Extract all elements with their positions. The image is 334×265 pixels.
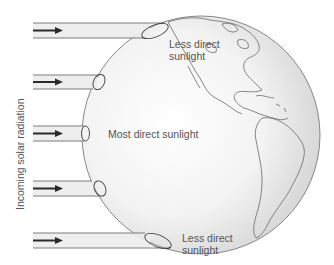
label-top-line-2: sunlight [169,50,220,62]
label-bottom-line-1: Less direct [182,232,233,244]
label-top-line-1: Less direct [169,38,220,50]
ray-3 [33,126,90,141]
label-bottom-line-2: sunlight [182,244,233,256]
ray-2 [33,72,107,91]
incoming-solar-radiation-label: Incoming solar radiation [14,99,26,210]
label-most-direct: Most direct sunlight [108,128,198,140]
label-bottom-less-direct: Less direct sunlight [182,232,233,256]
ray-1 [33,20,170,42]
label-top-less-direct: Less direct sunlight [169,38,220,62]
